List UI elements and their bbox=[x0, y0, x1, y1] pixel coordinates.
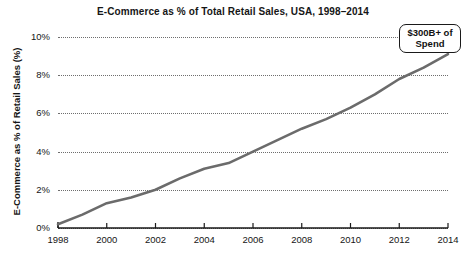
x-tick-label: 2002 bbox=[132, 234, 180, 245]
spend-callout-line-1: $300B+ of bbox=[400, 27, 460, 38]
chart-axes bbox=[0, 0, 466, 254]
x-tick-label: 2000 bbox=[83, 234, 131, 245]
x-tick-label: 2004 bbox=[180, 234, 228, 245]
x-tick-label: 2010 bbox=[327, 234, 375, 245]
x-tick-label: 2014 bbox=[424, 234, 466, 245]
spend-callout: $300B+ of Spend bbox=[399, 24, 461, 53]
x-tick-label: 1998 bbox=[34, 234, 82, 245]
x-tick-label: 2012 bbox=[375, 234, 423, 245]
x-tick-label: 2008 bbox=[278, 234, 326, 245]
spend-callout-line-2: Spend bbox=[400, 38, 460, 49]
x-tick-label: 2006 bbox=[229, 234, 277, 245]
data-line-series-0 bbox=[58, 54, 448, 224]
chart-container: E-Commerce as % of Total Retail Sales, U… bbox=[0, 0, 466, 254]
